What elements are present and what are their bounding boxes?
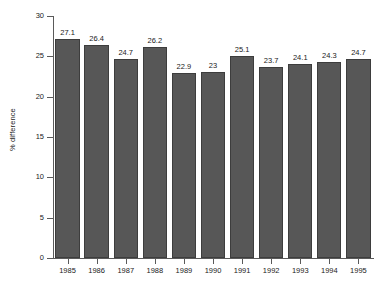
y-axis-tick-label: 25 — [22, 52, 44, 60]
bar-value-label: 26.2 — [135, 36, 175, 45]
bar — [259, 67, 283, 258]
bar-value-label: 24.7 — [338, 48, 378, 57]
y-axis-tick-label: 5 — [22, 214, 44, 222]
x-axis-tick — [242, 259, 243, 264]
bar — [201, 72, 225, 258]
x-axis-tick — [155, 259, 156, 264]
bar — [346, 59, 370, 258]
bar — [317, 62, 341, 258]
bar — [172, 73, 196, 258]
bar-chart: % difference 051015202530 19851986198719… — [0, 0, 389, 295]
x-axis-tick — [126, 259, 127, 264]
bar — [84, 45, 108, 258]
bar — [230, 56, 254, 258]
x-axis-tick-label: 1995 — [338, 266, 378, 275]
x-axis-tick — [300, 259, 301, 264]
y-axis-tick-label: 0 — [22, 254, 44, 262]
bar-value-label: 24.7 — [106, 48, 146, 57]
x-axis-tick — [213, 259, 214, 264]
bar — [288, 64, 312, 258]
y-axis-tick-label: 30 — [22, 12, 44, 20]
x-axis-tick — [329, 259, 330, 264]
plot-area: 27.126.424.726.222.92325.123.724.124.324… — [53, 16, 373, 258]
x-axis-tick — [97, 259, 98, 264]
y-axis-title-text: % difference — [8, 108, 17, 151]
y-axis-tick — [47, 258, 53, 259]
bar-value-label: 23 — [193, 61, 233, 70]
y-axis-title: % difference — [2, 0, 22, 258]
y-axis-tick-label: 20 — [22, 93, 44, 101]
x-axis-tick — [184, 259, 185, 264]
bar — [55, 39, 79, 258]
x-axis-tick — [358, 259, 359, 264]
bar-value-label: 26.4 — [77, 34, 117, 43]
bar-value-label: 25.1 — [222, 45, 262, 54]
bar — [114, 59, 138, 258]
y-axis-tick-label: 15 — [22, 133, 44, 141]
x-axis-tick — [271, 259, 272, 264]
bar — [143, 47, 167, 258]
y-axis-tick-label: 10 — [22, 173, 44, 181]
x-axis-tick — [68, 259, 69, 264]
